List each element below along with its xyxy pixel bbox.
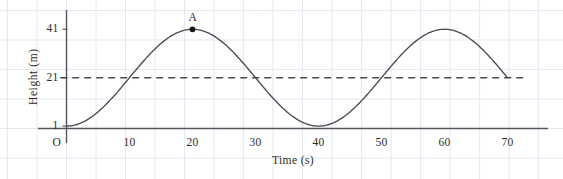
y-tick-label-41: 41 [31,23,59,35]
chart-plot-area [0,0,563,179]
x-tick-label-20: 20 [177,137,209,149]
point-a-marker [190,26,196,32]
chart-figure: 41 21 1 10 20 30 40 50 60 70 O A Time (s… [0,0,563,179]
y-axis-title: Height (m) [28,48,40,105]
x-tick-label-70: 70 [492,137,524,149]
x-axis-title: Time (s) [272,155,314,167]
gridlines [0,0,563,179]
x-tick-label-10: 10 [114,137,146,149]
point-a-label: A [189,12,198,24]
x-tick-label-60: 60 [429,137,461,149]
x-tick-label-30: 30 [240,137,272,149]
origin-label: O [53,137,61,149]
x-tick-label-50: 50 [366,137,398,149]
y-tick-label-1: 1 [31,120,59,132]
x-tick-label-40: 40 [303,137,335,149]
axes [38,10,548,143]
